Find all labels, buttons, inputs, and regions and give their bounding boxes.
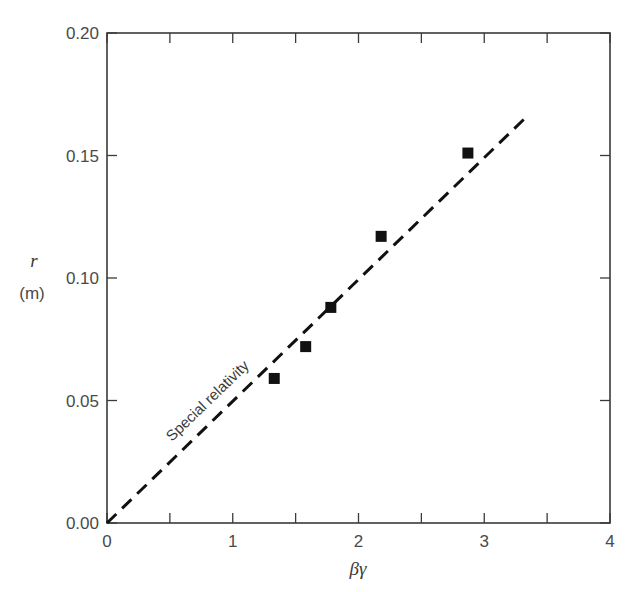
y-tick-label: 0.00 xyxy=(66,514,99,533)
y-axis-unit: (m) xyxy=(19,284,44,303)
dashed-fit-line xyxy=(107,116,527,523)
chart: 012340.000.050.100.150.20 Special relati… xyxy=(0,0,629,592)
data-point-square xyxy=(300,341,311,352)
y-tick-label: 0.10 xyxy=(66,269,99,288)
special-relativity-label: Special relativity xyxy=(162,356,252,444)
y-tick-label: 0.15 xyxy=(66,147,99,166)
y-tick-label: 0.20 xyxy=(66,24,99,43)
data-point-square xyxy=(269,373,280,384)
data-point-square xyxy=(462,148,473,159)
y-axis-label: r xyxy=(30,250,38,271)
x-tick-label: 1 xyxy=(228,532,237,551)
axis-tick-labels: 012340.000.050.100.150.20 xyxy=(66,24,615,551)
x-tick-label: 3 xyxy=(480,532,489,551)
data-point-square xyxy=(376,231,387,242)
special-relativity-line xyxy=(107,116,527,523)
x-tick-label: 2 xyxy=(354,532,363,551)
x-tick-label: 0 xyxy=(102,532,111,551)
x-axis-label: βγ xyxy=(349,558,367,579)
y-tick-label: 0.05 xyxy=(66,392,99,411)
data-point-square xyxy=(325,302,336,313)
x-tick-label: 4 xyxy=(605,532,614,551)
